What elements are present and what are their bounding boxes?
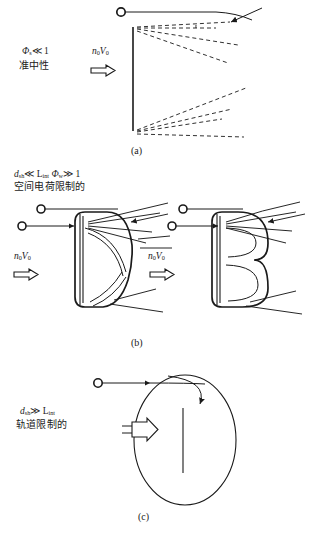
flow-arrow-c-svg	[0, 0, 313, 538]
panel-c-caption: (c)	[138, 511, 149, 523]
figure-container: Φs≪ 1 准中性 n0V0 (a) dsh≪ Lint Φw≫ 1 空间电荷限…	[0, 0, 313, 538]
flow-arrow-c	[132, 418, 158, 441]
